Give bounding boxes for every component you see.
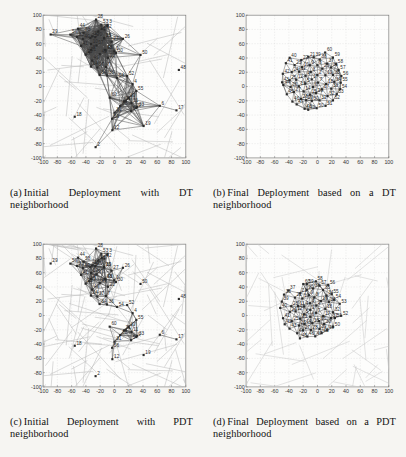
svg-text:3: 3 (312, 67, 315, 72)
svg-text:-40: -40 (34, 112, 42, 118)
svg-text:0: 0 (315, 159, 318, 165)
plot-d-svg: -100-80-60-40-20020406080100-100-80-60-4… (222, 239, 394, 411)
svg-text:100: 100 (32, 12, 41, 18)
svg-text:-20: -20 (299, 388, 307, 394)
svg-text:29: 29 (307, 95, 313, 100)
caption-a-label: (a) (10, 187, 22, 198)
svg-text:4: 4 (305, 301, 308, 306)
svg-text:14: 14 (306, 319, 312, 324)
svg-text:54: 54 (118, 302, 124, 307)
svg-text:32: 32 (334, 307, 340, 312)
svg-text:12: 12 (114, 125, 120, 130)
svg-text:39: 39 (315, 52, 321, 57)
svg-text:-80: -80 (34, 370, 42, 376)
svg-text:33: 33 (138, 102, 144, 107)
svg-text:36: 36 (108, 70, 114, 75)
svg-text:50: 50 (142, 50, 148, 55)
caption-c-text: Initial Deployment with PDT neighborhood (10, 416, 193, 439)
svg-text:60: 60 (357, 159, 363, 165)
svg-text:20: 20 (125, 388, 131, 394)
svg-text:35: 35 (93, 260, 99, 265)
plot-c: -100-80-60-40-20020406080100-100-80-60-4… (19, 239, 191, 411)
panel-b: -100-80-60-40-20020406080100-100-80-60-4… (203, 0, 406, 229)
svg-text:0: 0 (38, 312, 41, 318)
svg-text:-40: -40 (82, 159, 90, 165)
svg-text:-20: -20 (237, 327, 245, 333)
svg-text:-60: -60 (67, 159, 75, 165)
svg-text:4: 4 (134, 79, 137, 84)
svg-text:49: 49 (93, 55, 99, 60)
svg-text:9: 9 (311, 60, 314, 65)
svg-text:26: 26 (124, 34, 130, 39)
svg-text:37: 37 (328, 58, 334, 63)
svg-text:100: 100 (181, 159, 190, 165)
svg-text:40: 40 (35, 55, 41, 61)
svg-text:40: 40 (140, 159, 146, 165)
svg-text:19: 19 (327, 70, 333, 75)
svg-text:40: 40 (343, 388, 349, 394)
svg-text:17: 17 (178, 105, 184, 110)
svg-text:-20: -20 (237, 98, 245, 104)
svg-text:37: 37 (98, 62, 104, 67)
svg-text:19: 19 (145, 350, 151, 355)
svg-text:41: 41 (82, 270, 88, 275)
svg-text:0: 0 (241, 312, 244, 318)
svg-text:0: 0 (241, 83, 244, 89)
svg-text:34: 34 (101, 299, 107, 304)
svg-text:41: 41 (82, 41, 88, 46)
svg-text:55: 55 (138, 315, 144, 320)
svg-text:54: 54 (118, 73, 124, 78)
svg-text:60: 60 (154, 388, 160, 394)
svg-text:40: 40 (238, 55, 244, 61)
svg-text:80: 80 (371, 159, 377, 165)
svg-text:24: 24 (291, 307, 297, 312)
svg-text:60: 60 (238, 270, 244, 276)
svg-text:58: 58 (85, 256, 91, 261)
svg-text:6: 6 (311, 312, 314, 317)
svg-text:7: 7 (317, 308, 320, 313)
svg-text:48: 48 (180, 294, 186, 299)
svg-text:23: 23 (296, 60, 302, 65)
svg-text:34: 34 (336, 77, 342, 82)
svg-text:-80: -80 (256, 159, 264, 165)
svg-text:56: 56 (343, 71, 349, 76)
svg-text:41: 41 (284, 313, 290, 318)
svg-text:-80: -80 (53, 159, 61, 165)
svg-text:13: 13 (301, 314, 307, 319)
svg-text:-40: -40 (82, 388, 90, 394)
caption-a-text: Initial Deployment with DT neighborhood (10, 187, 193, 210)
svg-text:20: 20 (238, 69, 244, 75)
svg-text:38: 38 (285, 289, 291, 294)
svg-text:14: 14 (92, 61, 98, 66)
panel-d: -100-80-60-40-20020406080100-100-80-60-4… (203, 229, 406, 457)
svg-text:57: 57 (98, 40, 104, 45)
plot-b-svg: -100-80-60-40-20020406080100-100-80-60-4… (222, 10, 394, 182)
svg-text:7: 7 (107, 291, 110, 296)
svg-text:60: 60 (35, 41, 41, 47)
svg-text:0: 0 (315, 388, 318, 394)
svg-text:14: 14 (305, 86, 311, 91)
svg-text:0: 0 (112, 159, 115, 165)
caption-a: (a)Initial Deployment with DT neighborho… (10, 187, 193, 212)
caption-d-label: (d) (213, 416, 225, 427)
svg-text:43: 43 (107, 45, 113, 50)
svg-text:31: 31 (116, 107, 122, 112)
svg-text:100: 100 (384, 159, 393, 165)
svg-text:28: 28 (312, 325, 318, 330)
svg-text:-60: -60 (34, 355, 42, 361)
svg-text:9: 9 (310, 290, 313, 295)
svg-text:37: 37 (98, 291, 104, 296)
svg-text:-40: -40 (285, 159, 293, 165)
svg-text:30: 30 (325, 319, 331, 324)
svg-text:46: 46 (309, 331, 315, 336)
svg-text:37: 37 (290, 285, 296, 290)
svg-text:40: 40 (35, 284, 41, 290)
svg-text:-20: -20 (34, 98, 42, 104)
svg-text:0: 0 (112, 388, 115, 394)
svg-text:27: 27 (113, 265, 119, 270)
svg-text:19: 19 (322, 296, 328, 301)
svg-text:20: 20 (35, 298, 41, 304)
svg-text:47: 47 (127, 96, 133, 101)
svg-text:47: 47 (298, 99, 304, 104)
svg-text:51: 51 (90, 276, 96, 281)
